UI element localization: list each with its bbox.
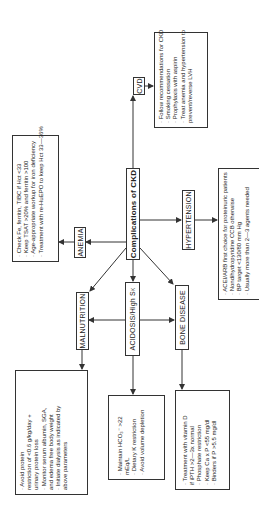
- bone-disease-recommendations: · Treatment with vitamin D if iPTH >2—3x…: [175, 390, 230, 490]
- list-item: · ACEI/ARB first choice for proteinuric …: [222, 173, 229, 295]
- list-item: · Keep Ca x P <55 mg/dl: [204, 395, 211, 485]
- acidosis-label-subscript: K: [130, 288, 136, 292]
- list-item: · Smoking cessation: [165, 37, 172, 123]
- hypertension-label: HYPERTENSION: [185, 191, 192, 249]
- list-item: · BP target <130/80 mm Hg: [236, 173, 243, 295]
- ckd-complications-diagram: Complications of CKD CVD · Follow recomm…: [0, 0, 259, 528]
- cvd-recommendations: · Follow recommendations for CKD · Smoki…: [154, 32, 208, 128]
- cvd-node: CVD: [133, 77, 145, 95]
- list-item: · Treatment with re-HuEPO to keep Hct 33…: [38, 140, 45, 257]
- center-node: Complications of CKD: [126, 168, 140, 260]
- hypertension-recommendations: · ACEI/ARB first choice for proteinuric …: [218, 168, 259, 300]
- list-item: · Treat anemia and hypertension to: [180, 37, 187, 123]
- anemia-label: ANEMIA: [77, 228, 84, 256]
- list-item: above parameters: [62, 375, 69, 490]
- list-item: · Avoid protein: [19, 375, 26, 490]
- list-item: · Monitor serum albumin, SGA,: [41, 375, 48, 490]
- list-item: prevent/reverse LVH: [187, 37, 194, 123]
- cvd-label: CVD: [136, 78, 143, 93]
- list-item: · Check Fe, ferritin, TIBC if Hct <33: [16, 140, 23, 257]
- list-item: if iPTH >2—3x normal: [189, 395, 196, 485]
- list-item: urinary protein loss: [33, 375, 40, 490]
- center-label: Complications of CKD: [129, 170, 138, 258]
- list-item: and edema free body weight: [48, 375, 55, 490]
- list-item: · Prophylaxis with aspirin: [172, 37, 179, 123]
- anemia-recommendations: · Check Fe, ferritin, TIBC if Hct <33 · …: [12, 135, 59, 262]
- list-item: · Nondihydropyridine CCB otherwise: [229, 173, 236, 295]
- malnutrition-node: MALNUTRITION: [76, 292, 89, 350]
- list-item: · Follow recommendations for CKD: [158, 37, 165, 123]
- malnutrition-recommendations: · Avoid protein restriction of <0.6 g/kg…: [15, 370, 88, 495]
- acidosis-label: ACIDOSIS/High S: [129, 291, 136, 350]
- acidosis-node: ACIDOSIS/High SK: [125, 282, 140, 356]
- list-item: · Usually more than 2—3 agents needed: [244, 173, 251, 295]
- list-item: · Initiate dialysis as indicated by: [55, 375, 62, 490]
- list-item: · Age-appropriate workup for iron defici…: [30, 140, 37, 257]
- list-item: restriction of <0.6 g/kg/day +: [26, 375, 33, 490]
- acidosis-recommendations: · Maintain HCO₃⁻ >22 mEq/L · Dietary K r…: [108, 395, 165, 480]
- list-item: · Avoid volume depletion: [139, 400, 146, 475]
- list-item: mEq/L: [124, 400, 131, 475]
- list-item: · Maintain HCO₃⁻ >22: [117, 400, 124, 475]
- malnutrition-label: MALNUTRITION: [79, 294, 86, 349]
- list-item: · Dietary K restriction: [131, 400, 138, 475]
- list-item: · Phosphate restriction: [196, 395, 203, 485]
- bone-disease-node: BONE DISEASE: [175, 285, 189, 350]
- anemia-node: ANEMIA: [74, 227, 86, 258]
- bone-disease-label: BONE DISEASE: [179, 290, 186, 345]
- hypertension-node: HYPERTENSION: [182, 190, 195, 250]
- list-item: · Keep TSAT >20% and ferritin >100: [23, 140, 30, 257]
- list-item: · Treatment with vitamin D: [182, 395, 189, 485]
- list-item: · Binders if P >5.5 mg/dl: [211, 395, 218, 485]
